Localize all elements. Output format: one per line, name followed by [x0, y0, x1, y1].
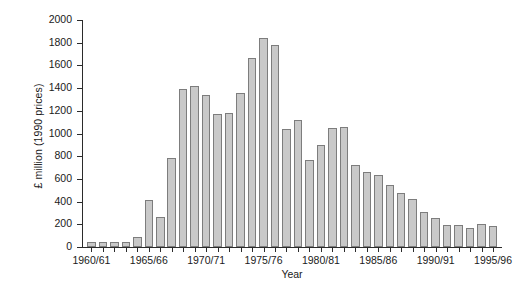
x-axis-tick	[91, 248, 92, 252]
x-axis-tick	[424, 248, 425, 252]
x-axis-tick	[103, 248, 104, 252]
x-axis-tick	[344, 248, 345, 252]
bar	[477, 224, 485, 247]
x-axis-tick	[275, 248, 276, 252]
bar	[282, 129, 290, 247]
bar	[408, 199, 416, 247]
bar	[443, 225, 451, 247]
x-axis-tick	[470, 248, 471, 252]
y-axis-tick-label: 600	[2, 173, 72, 184]
x-axis-tick	[367, 248, 368, 252]
bar	[466, 228, 474, 247]
bar	[454, 225, 462, 247]
y-axis-tick-label: 1200	[2, 105, 72, 116]
x-axis-tick	[332, 248, 333, 252]
bar	[259, 38, 267, 247]
x-axis-tick	[126, 248, 127, 252]
y-axis-tick	[77, 247, 82, 248]
x-axis-tick	[390, 248, 391, 252]
x-axis-tick	[241, 248, 242, 252]
y-axis-tick-label: 200	[2, 218, 72, 229]
x-axis-tick	[160, 248, 161, 252]
x-axis-tick	[321, 248, 322, 252]
bar	[225, 113, 233, 247]
bar	[374, 175, 382, 247]
x-axis-tick	[493, 248, 494, 252]
x-axis-tick	[195, 248, 196, 252]
x-axis-title: Year	[82, 268, 502, 280]
bar	[133, 237, 141, 247]
bar	[179, 89, 187, 247]
bar	[99, 242, 107, 247]
x-axis-tick	[137, 248, 138, 252]
bar	[271, 45, 279, 247]
bar	[167, 158, 175, 247]
bar	[386, 185, 394, 247]
y-axis-tick-label: 1600	[2, 59, 72, 70]
bar	[489, 226, 497, 247]
x-axis-tick	[206, 248, 207, 252]
x-axis-tick	[264, 248, 265, 252]
bar	[363, 172, 371, 247]
bar	[202, 95, 210, 247]
bar	[305, 160, 313, 247]
bar	[156, 217, 164, 247]
x-axis-tick	[218, 248, 219, 252]
x-axis-tick	[378, 248, 379, 252]
x-axis-tick	[413, 248, 414, 252]
y-axis-tick-label: 800	[2, 150, 72, 161]
bar	[87, 242, 95, 247]
y-axis-tick-label: 400	[2, 196, 72, 207]
x-axis-tick	[447, 248, 448, 252]
y-axis-tick-label: 1400	[2, 82, 72, 93]
bar	[213, 114, 221, 247]
bar	[351, 165, 359, 247]
bar	[190, 86, 198, 247]
x-axis-tick	[114, 248, 115, 252]
x-axis-tick-label: 1995/96	[458, 254, 526, 266]
x-axis-tick	[252, 248, 253, 252]
x-axis-tick	[401, 248, 402, 252]
x-axis-line	[82, 247, 502, 248]
x-axis-tick	[172, 248, 173, 252]
bar	[145, 200, 153, 247]
x-axis-tick	[286, 248, 287, 252]
bar	[110, 242, 118, 247]
bar	[420, 212, 428, 247]
y-axis-tick-label: 1000	[2, 128, 72, 139]
bar	[328, 128, 336, 247]
y-axis-tick-label: 0	[2, 241, 72, 252]
bar	[248, 58, 256, 247]
bar	[431, 218, 439, 247]
x-axis-tick	[459, 248, 460, 252]
bar	[236, 93, 244, 247]
y-axis-tick-label: 1800	[2, 37, 72, 48]
x-axis-tick	[355, 248, 356, 252]
bar	[340, 127, 348, 247]
bar	[122, 242, 130, 247]
bar-chart: £ million (1990 prices) 0200400600800100…	[0, 0, 526, 298]
x-axis-tick	[482, 248, 483, 252]
x-axis-tick	[298, 248, 299, 252]
bar	[317, 145, 325, 247]
y-axis-tick-label: 2000	[2, 14, 72, 25]
bar	[397, 193, 405, 247]
x-axis-tick	[149, 248, 150, 252]
x-axis-tick	[436, 248, 437, 252]
x-axis-tick	[183, 248, 184, 252]
x-axis-tick	[229, 248, 230, 252]
bar	[294, 120, 302, 247]
x-axis-tick	[309, 248, 310, 252]
bars-layer	[82, 20, 502, 247]
